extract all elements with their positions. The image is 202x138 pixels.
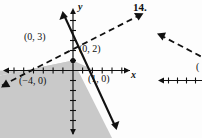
point-label-0-3: (0, 3)	[24, 32, 46, 42]
exercise-number-label: 14.	[133, 2, 147, 13]
second-figure-partial-label: (	[196, 62, 199, 72]
second-figure-dashed-line	[160, 35, 202, 57]
second-figure-dashed-arrow	[157, 32, 166, 40]
point-label-neg4-0: (−4, 0)	[19, 76, 46, 86]
point-label-0-2: (0, 2)	[79, 44, 101, 54]
second-figure-x-axis-arrow-left	[158, 78, 164, 84]
graph-figure: (0, 3) (0, 2) (−4, 0) (1, 0) y x 14. (	[0, 0, 202, 138]
coordinate-plane-svg	[0, 0, 202, 138]
point-label-1-0: (1, 0)	[88, 74, 110, 84]
y-axis-arrow-up	[70, 8, 76, 14]
intersection-point-dot	[70, 58, 75, 63]
y-axis-label: y	[78, 2, 82, 12]
x-axis-arrow-right	[124, 68, 130, 74]
x-axis-label: x	[131, 70, 136, 80]
